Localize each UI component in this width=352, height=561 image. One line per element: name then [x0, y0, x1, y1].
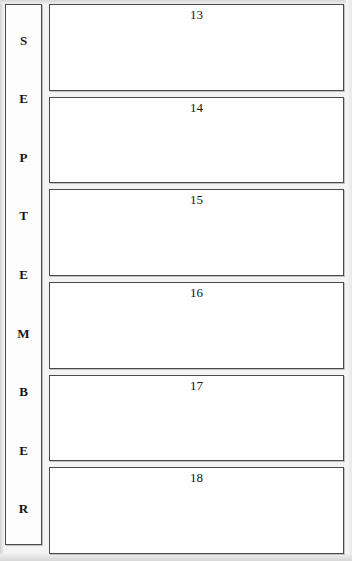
day-entry-box[interactable]: 16: [49, 282, 344, 369]
day-number: 15: [50, 193, 343, 208]
day-writing-area[interactable]: [50, 398, 343, 461]
month-letter-1: S: [20, 34, 27, 47]
month-letter-6: M: [17, 327, 29, 340]
month-letter-8: E: [19, 444, 28, 457]
month-spine: S E P T E M B E R: [5, 4, 42, 545]
day-number: 18: [50, 471, 343, 486]
month-letter-5: E: [19, 268, 28, 281]
day-writing-area[interactable]: [50, 27, 343, 90]
weekly-planner-grid: S E P T E M B E R 13 14 15: [5, 4, 344, 554]
month-letter-7: B: [19, 385, 28, 398]
day-number: 17: [50, 379, 343, 394]
day-entry-column: 13 14 15 16 17 18: [49, 4, 344, 554]
month-letter-9: R: [19, 502, 28, 515]
day-number: 16: [50, 286, 343, 301]
month-letter-3: P: [20, 151, 28, 164]
scanned-planner-page: S E P T E M B E R 13 14 15: [0, 0, 352, 561]
day-writing-area[interactable]: [50, 490, 343, 553]
day-writing-area[interactable]: [50, 120, 343, 183]
page-edge-right: [346, 0, 352, 561]
day-entry-box[interactable]: 17: [49, 375, 344, 462]
page-edge-bottom: [0, 554, 352, 561]
month-letter-2: E: [19, 92, 28, 105]
page-edge-left: [0, 0, 4, 561]
day-entry-box[interactable]: 14: [49, 97, 344, 184]
day-number: 13: [50, 8, 343, 23]
day-writing-area[interactable]: [50, 305, 343, 368]
day-entry-box[interactable]: 15: [49, 189, 344, 276]
day-entry-box[interactable]: 18: [49, 467, 344, 554]
month-letter-4: T: [19, 209, 28, 222]
day-entry-box[interactable]: 13: [49, 4, 344, 91]
day-writing-area[interactable]: [50, 212, 343, 275]
day-number: 14: [50, 101, 343, 116]
